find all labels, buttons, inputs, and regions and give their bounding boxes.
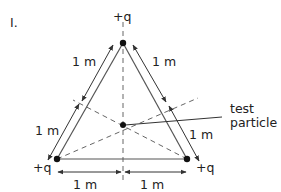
distance-label-lower-right: 1 m bbox=[189, 127, 213, 142]
distance-label-bottom-right: 1 m bbox=[140, 177, 164, 192]
charge-triangle-diagram: I. +q +q +q 1 m 1 m 1 m 1 m 1 m 1 m test… bbox=[0, 0, 281, 192]
charge-label-bottom-left: +q bbox=[33, 160, 51, 175]
charge-bottom-left bbox=[54, 156, 60, 162]
distance-label-right: 1 m bbox=[152, 54, 176, 69]
charge-label-top: +q bbox=[113, 9, 131, 24]
distance-label-bottom-left: 1 m bbox=[73, 177, 97, 192]
distance-label-left: 1 m bbox=[72, 54, 96, 69]
charge-label-bottom-right: +q bbox=[196, 160, 214, 175]
panel-label: I. bbox=[10, 15, 18, 30]
charge-bottom-right bbox=[184, 156, 190, 162]
test-particle-label-line1: test bbox=[230, 101, 254, 116]
test-particle-label-line2: particle bbox=[230, 115, 277, 130]
test-particle-pointer bbox=[125, 117, 222, 125]
test-particle-point bbox=[120, 122, 126, 128]
distance-label-lower-left: 1 m bbox=[35, 123, 59, 138]
charge-top bbox=[120, 40, 126, 46]
median-from-bottom-right bbox=[73, 100, 187, 159]
